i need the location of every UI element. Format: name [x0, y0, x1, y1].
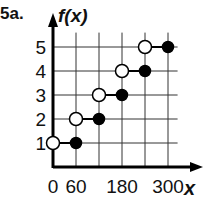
open-circle-icon	[116, 65, 129, 78]
open-circle-icon	[70, 113, 83, 126]
step-segment	[116, 65, 151, 78]
x-tick-label: 300	[152, 176, 184, 197]
open-circle-icon	[47, 137, 60, 150]
y-tick-label: 1	[35, 133, 46, 154]
x-axis-label: x	[183, 177, 196, 199]
x-tick-label: 60	[65, 176, 86, 197]
x-tick-label: 0	[48, 176, 59, 197]
y-axis-arrow-icon	[48, 13, 58, 27]
x-axis-arrow-icon	[190, 162, 203, 172]
step-function-chart: 5a. 12345060180300 x f(x)	[0, 0, 207, 202]
closed-dot-icon	[140, 66, 151, 77]
closed-dot-icon	[163, 42, 174, 53]
closed-dot-icon	[94, 114, 105, 125]
step-segment	[70, 113, 105, 126]
y-tick-label: 3	[35, 85, 46, 106]
step-segment	[139, 41, 174, 54]
closed-dot-icon	[71, 138, 82, 149]
y-axis-label: f(x)	[58, 5, 88, 26]
step-segment	[93, 89, 128, 102]
open-circle-icon	[139, 41, 152, 54]
y-tick-label: 2	[35, 109, 46, 130]
tick-labels: 12345060180300	[35, 37, 183, 197]
closed-dot-icon	[117, 90, 128, 101]
x-tick-label: 180	[106, 176, 138, 197]
open-circle-icon	[93, 89, 106, 102]
y-tick-label: 4	[35, 61, 46, 82]
step-segment	[47, 137, 82, 150]
y-tick-label: 5	[35, 37, 46, 58]
problem-label: 5a.	[0, 4, 24, 23]
